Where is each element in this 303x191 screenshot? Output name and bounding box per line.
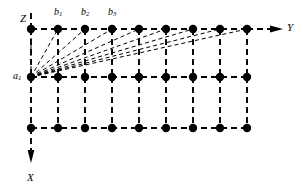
fan-line-to-col-5 (31, 29, 166, 77)
lattice-node-r1-c4 (135, 73, 143, 81)
lattice-node-r2-c7 (216, 124, 224, 132)
lattice-node-r2-c2 (81, 124, 89, 132)
lattice-node-r1-c8 (243, 73, 251, 81)
lattice-node-r1-c0 (27, 73, 35, 81)
node-label-b1: b1 (54, 7, 62, 18)
lattice-node-r0-c2 (81, 25, 89, 33)
node-label-b3: b3 (108, 7, 116, 18)
lattice-node-r1-c7 (216, 73, 224, 81)
lattice-node-r0-c4 (135, 25, 143, 33)
axis-lines (28, 12, 283, 163)
lattice-node-r1-c1 (54, 73, 62, 81)
lattice-node-r2-c6 (189, 124, 197, 132)
lattice-diagram (0, 0, 303, 191)
lattice-node-r0-c7 (216, 25, 224, 33)
axis-label-x: X (27, 172, 34, 183)
lattice-node-r0-c8 (243, 25, 251, 33)
fan-line-to-col-7 (31, 29, 220, 77)
lattice-node-r0-c1 (54, 25, 62, 33)
lattice-node-r0-c5 (162, 25, 170, 33)
axis-label-y: Y (287, 22, 293, 33)
lattice-node-r2-c5 (162, 124, 170, 132)
lattice-node-r1-c2 (81, 73, 89, 81)
lattice-node-r1-c3 (108, 73, 116, 81)
lattice-node-r2-c8 (243, 124, 251, 132)
axis-label-z: Z (20, 13, 26, 24)
axis-arrow-x (28, 150, 35, 163)
node-label-b2: b2 (81, 7, 89, 18)
lattice-node-r2-c4 (135, 124, 143, 132)
axis-arrow-y (270, 26, 283, 33)
lattice-node-r1-c5 (162, 73, 170, 81)
lattice-node-r0-c3 (108, 25, 116, 33)
lattice-node-r1-c6 (189, 73, 197, 81)
lattice-node-r2-c3 (108, 124, 116, 132)
node-label-a1: a1 (13, 71, 21, 82)
lattice-node-r2-c0 (27, 124, 35, 132)
lattice-node-r0-c0 (27, 25, 35, 33)
lattice-node-r0-c6 (189, 25, 197, 33)
lattice-node-r2-c1 (54, 124, 62, 132)
figure-canvas: Z Y X b1 b2 b3 a1 (0, 0, 303, 191)
